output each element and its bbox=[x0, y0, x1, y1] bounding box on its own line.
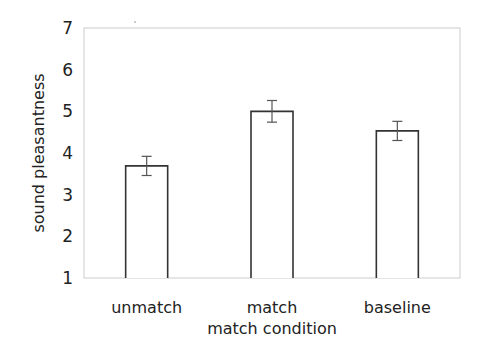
bar-match bbox=[251, 101, 293, 279]
x-tick-label: unmatch bbox=[111, 298, 182, 317]
x-axis-label: match condition bbox=[207, 319, 337, 338]
y-tick-label: 3 bbox=[62, 185, 73, 205]
x-tick-label: match bbox=[247, 298, 298, 317]
y-axis-label: sound pleasantness bbox=[29, 73, 48, 232]
y-tick-label: 1 bbox=[62, 268, 73, 288]
speck bbox=[134, 21, 136, 23]
y-axis-ticks: 1234567 bbox=[62, 18, 73, 288]
bar-baseline bbox=[376, 121, 418, 278]
x-axis-tick-labels: unmatchmatchbaseline bbox=[111, 298, 431, 317]
bar-unmatch bbox=[126, 156, 168, 278]
y-tick-label: 6 bbox=[62, 60, 73, 80]
y-tick-label: 7 bbox=[62, 18, 73, 38]
y-tick-label: 4 bbox=[62, 143, 73, 163]
bar-chart: 1234567 unmatchmatchbaseline match condi… bbox=[0, 0, 485, 355]
x-tick-label: baseline bbox=[364, 298, 431, 317]
y-tick-label: 5 bbox=[62, 101, 73, 121]
bars bbox=[126, 101, 419, 279]
y-tick-label: 2 bbox=[62, 226, 73, 246]
